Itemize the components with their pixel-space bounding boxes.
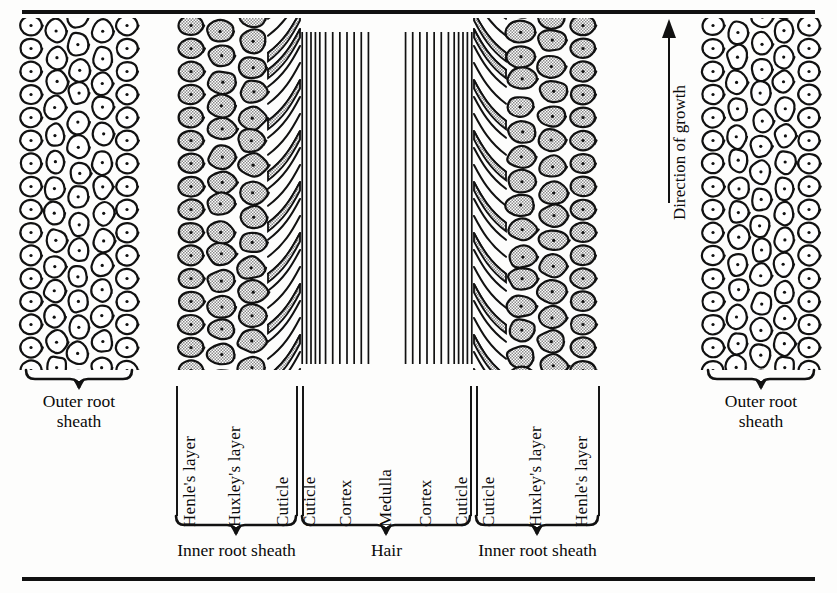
group-label-group-inner-root-sheath-right: Inner root sheath <box>119 541 837 561</box>
label-outer-right: Outer rootsheath <box>681 392 837 431</box>
brace-inner-root-sheath-left-pointer <box>231 527 241 536</box>
brace-hair-pointer <box>381 527 391 536</box>
brace-outer-root-sheath-right-pointer <box>756 381 766 390</box>
brace-outer-root-sheath-left-pointer <box>74 381 84 390</box>
figure-canvas: Direction of growth Henle's layerHuxley'… <box>0 0 837 593</box>
brace-inner-root-sheath-right-pointer <box>532 527 542 536</box>
label-outer-left: Outer rootsheath <box>0 392 159 431</box>
group-braces <box>0 0 837 593</box>
